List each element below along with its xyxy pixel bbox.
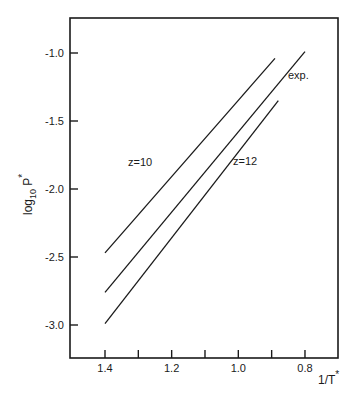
line-exp [105,52,305,293]
annotation-z10: z=10 [128,156,152,168]
y-axis-ticks: -1.0-1.5-2.0-2.5-3.0 [45,47,78,331]
y-tick-label: -3.0 [45,319,64,331]
annotation-z12: z=12 [233,155,257,167]
line-z12 [105,101,278,324]
chart-svg: -1.0-1.5-2.0-2.5-3.0 1.41.21.00.8 z=10 z… [0,0,354,399]
x-axis-ticks: 1.41.21.00.8 [97,350,312,374]
x-tick-label: 1.0 [231,362,246,374]
x-axis-label: 1/T* [318,369,339,387]
annotation-exp: exp. [288,69,309,81]
y-tick-label: -2.0 [45,183,64,195]
x-tick-label: 0.8 [297,362,312,374]
y-tick-label: -1.0 [45,47,64,59]
y-axis-label: log10 P* [17,174,38,215]
x-tick-label: 1.2 [164,362,179,374]
y-tick-label: -2.5 [45,251,64,263]
x-tick-label: 1.4 [97,362,112,374]
data-lines [105,52,305,324]
y-tick-label: -1.5 [45,115,64,127]
